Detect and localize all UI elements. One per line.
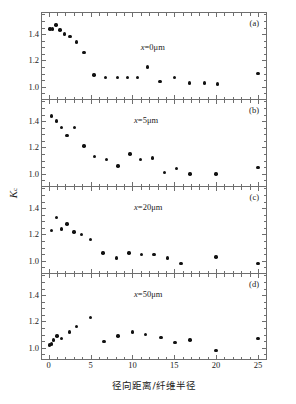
- y-tick: [42, 234, 46, 235]
- x-tick-minor: [158, 357, 159, 360]
- y-tick-minor-right: [264, 80, 267, 81]
- y-tick-minor: [42, 248, 45, 249]
- x-tick-top: [174, 100, 175, 104]
- y-tick-minor-right: [264, 275, 267, 276]
- x-tick-top: [91, 100, 92, 104]
- x-tick-minor-top: [82, 100, 83, 103]
- y-tick-minor-right: [264, 21, 267, 22]
- y-tick-minor-right: [264, 154, 267, 155]
- y-tick-minor-right: [264, 282, 267, 283]
- data-point: [72, 230, 75, 233]
- data-point: [256, 72, 259, 75]
- x-tick-top: [258, 187, 259, 191]
- y-tick-minor: [42, 289, 45, 290]
- y-tick-minor: [42, 354, 45, 355]
- y-tick-right: [262, 121, 266, 122]
- x-tick-minor: [99, 357, 100, 360]
- x-tick-minor-top: [158, 274, 159, 277]
- x-tick-minor-top: [250, 274, 251, 277]
- x-tick-minor-top: [158, 100, 159, 103]
- x-tick-minor-top: [224, 187, 225, 190]
- x-tick: [49, 355, 50, 359]
- data-point: [101, 251, 104, 254]
- data-point: [82, 144, 85, 147]
- x-tick-minor-top: [65, 100, 66, 103]
- y-tick: [42, 147, 46, 148]
- y-axis-title-base: K: [7, 191, 19, 198]
- y-tick-minor: [42, 101, 45, 102]
- data-point: [73, 126, 76, 129]
- data-point: [92, 73, 95, 76]
- x-tick-minor-top: [208, 274, 209, 277]
- y-tick-minor: [42, 54, 45, 55]
- y-tick-label: 1.4: [28, 204, 39, 213]
- y-tick-minor: [42, 308, 45, 309]
- y-tick-minor: [42, 282, 45, 283]
- y-tick: [42, 60, 46, 61]
- y-tick-minor-right: [264, 28, 267, 29]
- data-point: [52, 338, 55, 341]
- data-point: [50, 342, 53, 345]
- data-point: [105, 158, 108, 161]
- chart-panel-c: 1.01.21.4x=20μm(c): [41, 186, 267, 273]
- y-tick-minor: [42, 47, 45, 48]
- y-tick-minor: [42, 221, 45, 222]
- y-tick-minor: [42, 341, 45, 342]
- y-tick-minor: [42, 134, 45, 135]
- y-tick-minor: [42, 21, 45, 22]
- data-point: [256, 166, 259, 169]
- y-tick: [42, 87, 46, 88]
- data-point: [58, 28, 61, 31]
- data-point: [102, 340, 105, 343]
- data-point: [256, 262, 259, 265]
- y-tick-minor-right: [264, 14, 267, 15]
- x-tick-top: [132, 13, 133, 17]
- x-tick-minor: [57, 357, 58, 360]
- x-tick-minor: [208, 357, 209, 360]
- y-tick-minor-right: [264, 289, 267, 290]
- y-tick-minor-right: [264, 41, 267, 42]
- data-point: [60, 337, 63, 340]
- x-tick-minor-top: [124, 187, 125, 190]
- y-tick-minor: [42, 154, 45, 155]
- x-tick-minor-top: [224, 100, 225, 103]
- data-point: [50, 229, 53, 232]
- y-tick-label: 1.0: [28, 344, 39, 353]
- x-tick-minor-top: [241, 100, 242, 103]
- y-axis-title: Kc: [0, 182, 28, 204]
- x-tick: [91, 355, 92, 359]
- x-tick-minor-top: [158, 187, 159, 190]
- data-point: [131, 330, 134, 333]
- y-tick-label: 1.2: [28, 230, 39, 239]
- y-tick-label: 1.2: [28, 143, 39, 152]
- y-tick-minor-right: [264, 248, 267, 249]
- x-tick-label: 0: [47, 361, 51, 370]
- x-tick-minor: [107, 357, 108, 360]
- y-tick-minor-right: [264, 128, 267, 129]
- plot-area: [42, 100, 266, 186]
- x-tick-minor: [233, 357, 234, 360]
- x-tick-top: [91, 13, 92, 17]
- x-axis-title: 径向距离/纤维半径: [41, 378, 267, 392]
- y-tick-minor: [42, 141, 45, 142]
- data-point: [163, 171, 166, 174]
- y-tick: [42, 261, 46, 262]
- x-tick-minor-top: [199, 13, 200, 16]
- x-tick-top: [258, 13, 259, 17]
- y-axis-title-subscript: c: [11, 188, 19, 191]
- x-tick-minor: [82, 357, 83, 360]
- x-tick-minor-top: [116, 274, 117, 277]
- x-tick-top: [216, 274, 217, 278]
- y-tick: [42, 321, 46, 322]
- data-point: [116, 164, 119, 167]
- y-tick-minor: [42, 128, 45, 129]
- y-tick-label: 1.0: [28, 170, 39, 179]
- y-tick-minor-right: [264, 221, 267, 222]
- x-tick-minor-top: [191, 100, 192, 103]
- x-tick-top: [258, 100, 259, 104]
- x-tick-minor-top: [74, 274, 75, 277]
- data-point: [54, 23, 57, 26]
- y-tick-minor-right: [264, 93, 267, 94]
- x-tick-top: [132, 187, 133, 191]
- y-tick-label: 1.2: [28, 317, 39, 326]
